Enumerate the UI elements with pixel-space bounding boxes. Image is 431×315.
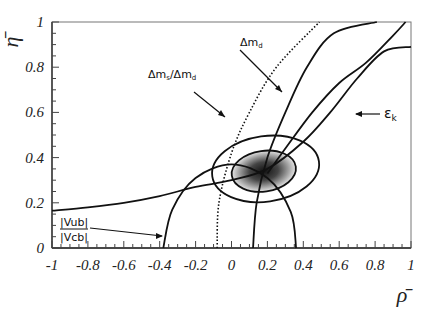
arrow-vub: [90, 228, 162, 236]
x-tick-label: 0: [228, 257, 236, 273]
x-tick-label: -1: [46, 257, 59, 273]
y-tick-label: 0.4: [25, 150, 44, 166]
annotation-epsk: εk: [355, 105, 398, 123]
y-tick-label: 1: [37, 14, 45, 30]
plot-frame: [52, 22, 411, 248]
annotation-dms-dmd: Δms/Δmd: [148, 68, 225, 117]
x-tick-label: 0.6: [330, 257, 349, 273]
y-tick-label: 0.2: [25, 195, 44, 211]
x-tick-label: -0.4: [148, 257, 172, 273]
svg-text:εk: εk: [384, 105, 398, 123]
x-axis-title: ρ̄: [396, 282, 414, 307]
axis-ticks: [52, 22, 411, 248]
annotation-vub-vcb: |Vub| |Vcb|: [60, 216, 163, 244]
svg-text:|Vub|: |Vub|: [60, 216, 88, 229]
curve--k-lower-branch-: [52, 47, 411, 211]
x-tick-label: 1: [407, 257, 415, 273]
y-tick-label: 0.8: [25, 59, 44, 75]
annotation-dmd: Δmd: [240, 36, 282, 92]
y-axis-title: η̄: [0, 31, 23, 48]
arrow-dmd: [240, 50, 282, 92]
constraint-curves: [52, 22, 411, 248]
svg-text:|Vcb|: |Vcb|: [60, 231, 88, 244]
x-tick-label: -0.6: [112, 257, 136, 273]
y-tick-label: 0.6: [25, 104, 44, 120]
x-tick-label: 0.2: [258, 257, 277, 273]
x-tick-label: 0.4: [294, 257, 313, 273]
x-tick-label: 0.8: [366, 257, 385, 273]
x-tick-label: -0.2: [184, 257, 208, 273]
y-tick-label: 0: [37, 240, 45, 256]
x-tick-label: -0.8: [76, 257, 100, 273]
unitarity-triangle-plot: -1-0.8-0.6-0.4-0.200.20.40.60.8100.20.40…: [0, 0, 431, 315]
svg-text:Δms/Δmd: Δms/Δmd: [148, 68, 196, 82]
svg-text:Δmd: Δmd: [240, 36, 263, 50]
curve--k-upper-branch-: [267, 22, 405, 173]
